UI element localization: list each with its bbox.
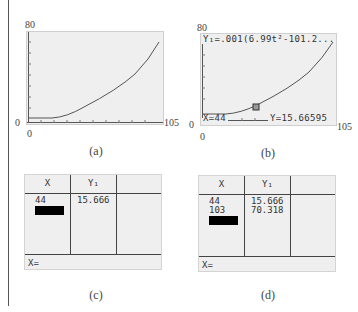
graph-window: Y₁=.001(6.99t²-101.2... X=44 Y=15.66595 [200,33,337,126]
column-header-y1: Y₁ [245,179,290,189]
trace-y-value: Y=15.66595 [270,113,327,123]
table-header: X Y₁ [25,175,161,194]
column-divider [244,176,245,256]
column-divider [290,176,291,256]
trace-cursor-icon [253,104,259,110]
table-c: X Y₁ 44 15.666 X= [24,174,162,270]
entry-line-text: X= [202,260,213,270]
entry-line[interactable]: X= [199,256,335,271]
column-divider [116,175,117,254]
trace-x-value: X=44 [203,113,226,123]
y-min-label: 0 [189,120,194,130]
table-d: X Y₁ 44 15.666 103 70.318 X= [198,175,336,272]
x-min-label: 0 [27,129,32,139]
caption-d: (d) [238,288,298,303]
cell-x: 44 [35,196,46,205]
left-margin-rule [8,0,9,306]
equation-text: Y₁=.001(6.99t²-101.2... [203,34,335,44]
x-max-label: 105 [164,118,179,128]
graph-window [26,31,164,125]
column-divider [70,175,71,254]
entry-line-text: X= [28,258,39,268]
entry-line[interactable]: X= [25,254,161,269]
x-max-label: 105 [337,122,352,132]
column-header-x: X [25,178,70,188]
caption-c: (c) [66,288,126,303]
caption-b: (b) [238,146,298,161]
caption-a: (a) [66,144,126,159]
cell-x: 103 [209,206,225,215]
column-header-x: X [199,179,244,189]
curve-plot [27,32,163,124]
y-min-label: 0 [15,118,20,128]
table-header: X Y₁ [199,176,335,195]
x-min-label: 0 [200,132,205,142]
y-max-label: 80 [25,20,35,30]
y-max-label: 80 [197,23,207,33]
cursor-block[interactable] [35,206,64,215]
cell-y1: 15.666 [77,196,110,205]
column-header-y1: Y₁ [71,178,116,188]
curve-plot [201,34,336,125]
cursor-block[interactable] [209,216,238,225]
cell-y1: 70.318 [251,206,284,215]
